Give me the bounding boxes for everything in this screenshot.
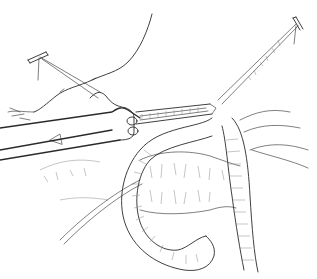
bowel-loop (122, 118, 258, 272)
omentum-tissue (40, 110, 308, 213)
surgical-illustration (0, 0, 317, 279)
illustration-canvas (0, 0, 317, 279)
mesentery-lines (60, 150, 308, 244)
stapler-instrument (0, 92, 216, 160)
stomach-outline (8, 14, 152, 120)
stay-suture-right (218, 17, 303, 104)
